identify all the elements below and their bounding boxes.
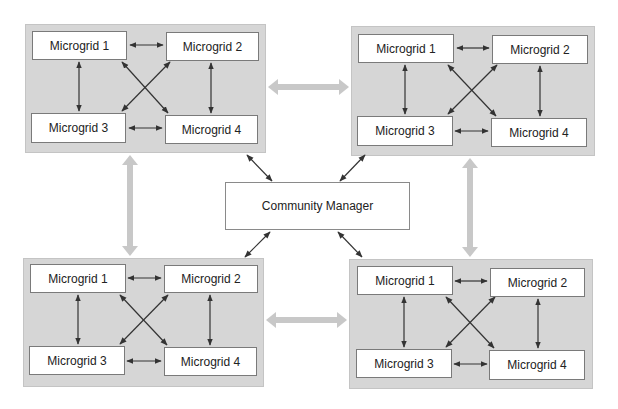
tr-microgrid-2: Microgrid 2 [492,35,588,64]
tr-microgrid-1: Microgrid 1 [358,34,454,63]
tl-microgrid-4: Microgrid 4 [165,115,258,144]
bl-microgrid-4: Microgrid 4 [164,347,257,376]
diagram-canvas: Microgrid 1 Microgrid 2 Microgrid 3 Micr… [0,0,618,409]
br-microgrid-2: Microgrid 2 [490,268,585,297]
community-manager-box: Community Manager [225,182,410,230]
bl-microgrid-1: Microgrid 1 [30,264,126,293]
br-microgrid-4: Microgrid 4 [489,350,585,380]
tr-microgrid-3: Microgrid 3 [357,116,453,146]
tl-microgrid-1: Microgrid 1 [32,31,127,60]
br-microgrid-1: Microgrid 1 [357,266,453,295]
tl-microgrid-3: Microgrid 3 [31,113,126,143]
bl-microgrid-2: Microgrid 2 [164,265,258,293]
bl-microgrid-3: Microgrid 3 [29,346,125,375]
br-microgrid-3: Microgrid 3 [356,349,452,378]
tl-microgrid-2: Microgrid 2 [166,32,259,61]
tr-microgrid-4: Microgrid 4 [491,118,587,147]
